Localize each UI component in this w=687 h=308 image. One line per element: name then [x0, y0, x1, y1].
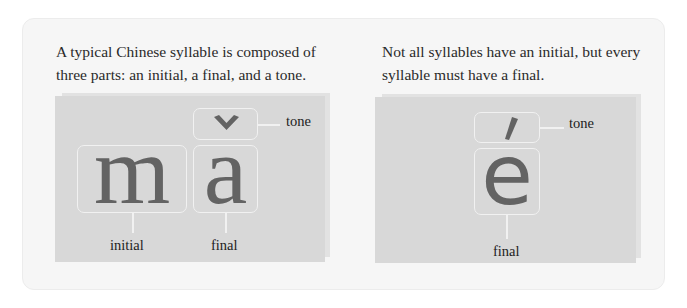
right-caption-line-1: Not all syllables have an initial, but e…	[382, 40, 672, 63]
tone-label: tone	[286, 113, 311, 130]
right-diagram-panel: tone e final	[375, 97, 636, 263]
acute-tone-icon	[475, 113, 540, 143]
tone-label: tone	[569, 115, 594, 132]
initial-connector	[132, 213, 134, 233]
right-caption-line-2: syllable must have a final.	[382, 63, 672, 86]
left-diagram-panel: tone m initial a final	[55, 96, 325, 262]
initial-box: m	[77, 145, 187, 213]
final-label: final	[493, 243, 520, 260]
caron-tone-icon	[194, 109, 258, 140]
final-box: e	[474, 148, 540, 215]
right-caption: Not all syllables have an initial, but e…	[382, 40, 672, 86]
final-label: final	[211, 237, 238, 254]
tone-box	[193, 108, 258, 140]
final-glyph: a	[194, 145, 257, 213]
tone-connector	[258, 124, 280, 126]
final-box: a	[193, 145, 258, 213]
left-caption-line-2: three parts: an initial, a final, and a …	[56, 63, 346, 86]
final-connector	[225, 213, 227, 233]
left-caption: A typical Chinese syllable is composed o…	[56, 40, 346, 86]
left-caption-line-1: A typical Chinese syllable is composed o…	[56, 40, 346, 63]
tone-connector	[540, 127, 564, 129]
final-connector	[506, 215, 508, 239]
initial-label: initial	[110, 237, 144, 254]
initial-glyph: m	[78, 145, 186, 213]
final-glyph: e	[475, 148, 539, 215]
tone-box	[474, 112, 540, 143]
